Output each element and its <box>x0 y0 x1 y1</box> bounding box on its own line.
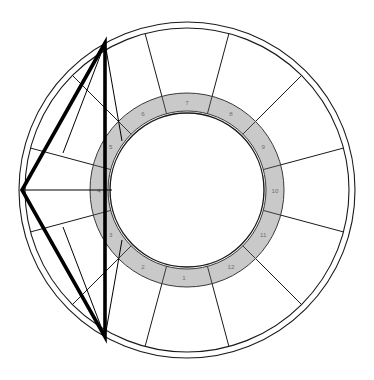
house-spoke-7 <box>212 34 229 97</box>
house-number-label: 7 <box>185 99 189 106</box>
house-spoke-12 <box>212 284 229 347</box>
house-number-label: 8 <box>229 110 233 117</box>
house-number-label: 9 <box>261 143 265 150</box>
house-spoke-9 <box>281 148 344 165</box>
house-number-label: 3 <box>109 231 113 238</box>
chart-wheel-svg: 123456789101112 <box>0 0 374 380</box>
house-spoke-11 <box>256 259 302 305</box>
thin-aspect-line-4 <box>105 240 122 337</box>
chart-wheel-container: 123456789101112 <box>0 0 374 380</box>
house-spoke-1 <box>145 284 162 347</box>
thin-aspect-line-2 <box>63 43 105 153</box>
house-spoke-10 <box>281 215 344 232</box>
thin-aspect-lines <box>22 43 122 337</box>
inner-circle <box>110 113 264 267</box>
thin-aspect-line-5 <box>63 227 105 337</box>
house-spoke-8 <box>256 75 302 121</box>
house-number-label: 2 <box>141 263 145 270</box>
house-number-label: 10 <box>272 187 279 194</box>
house-number-label: 11 <box>260 231 267 238</box>
house-number-label: 12 <box>228 263 235 270</box>
house-number-label: 1 <box>182 274 186 281</box>
inner-circle-group <box>110 113 264 267</box>
house-spoke-6 <box>145 34 162 97</box>
house-number-label: 5 <box>109 143 113 150</box>
house-number-label: 6 <box>141 110 145 117</box>
